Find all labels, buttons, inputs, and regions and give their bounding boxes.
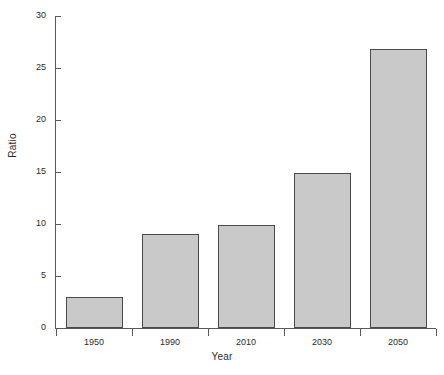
y-axis-tick — [55, 224, 61, 225]
y-axis-tick-label: 0 — [12, 323, 46, 332]
bar — [294, 173, 351, 328]
y-axis-tick — [55, 16, 61, 17]
y-axis-tick-label: 5 — [12, 271, 46, 280]
y-axis-tick — [55, 120, 61, 121]
x-axis-title: Year — [0, 351, 444, 362]
x-axis-tick — [284, 329, 285, 336]
y-axis-tick-label: 15 — [12, 167, 46, 176]
y-axis-tick-label: 20 — [12, 115, 46, 124]
y-axis-tick-label: 25 — [12, 63, 46, 72]
y-axis-tick-label: 10 — [12, 219, 46, 228]
y-axis-tick — [55, 172, 61, 173]
y-axis-tick — [55, 68, 61, 69]
x-axis-tick — [56, 329, 57, 336]
x-axis-tick-label: 1950 — [59, 338, 129, 347]
y-axis-line — [55, 16, 56, 329]
x-axis-tick — [360, 329, 361, 336]
bar — [66, 297, 123, 328]
x-axis-tick-label: 2010 — [211, 338, 281, 347]
bar — [142, 234, 199, 328]
x-axis-tick-label: 1990 — [135, 338, 205, 347]
x-axis-tick-label: 2030 — [287, 338, 357, 347]
bar — [218, 225, 275, 328]
bar — [370, 49, 427, 328]
x-axis-tick — [436, 329, 437, 336]
y-axis-tick — [55, 276, 61, 277]
x-axis-tick — [132, 329, 133, 336]
bar-chart: Ratio 051015202530 19501990201020302050 … — [0, 0, 444, 375]
y-axis-tick-label: 30 — [12, 11, 46, 20]
x-axis-tick-label: 2050 — [363, 338, 433, 347]
x-axis-tick — [208, 329, 209, 336]
x-axis-line — [55, 328, 436, 329]
